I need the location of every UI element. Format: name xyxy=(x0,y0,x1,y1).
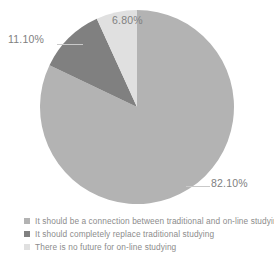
legend-item-label: It should completely replace traditional… xyxy=(35,229,214,239)
legend-item[interactable]: There is no future for on-line studying xyxy=(24,241,274,252)
legend-item-label: There is no future for on-line studying xyxy=(35,242,176,252)
pie-graphic: 6.80% 11.10% 82.10% xyxy=(0,0,274,212)
value-label-no-future: 6.80% xyxy=(112,14,143,26)
value-label-replace: 11.10% xyxy=(8,33,44,45)
chart-legend: It should be a connection between tradit… xyxy=(24,215,274,252)
legend-swatch-connection xyxy=(24,218,30,224)
pie-slices xyxy=(40,10,234,204)
leader-line-replace xyxy=(57,44,83,45)
legend-swatch-replace xyxy=(24,231,30,237)
pie-chart: 6.80% 11.10% 82.10% It should be a conne… xyxy=(0,0,274,264)
legend-swatch-no-future xyxy=(24,244,30,250)
legend-item-label: It should be a connection between tradit… xyxy=(35,216,274,226)
leader-line-connection xyxy=(186,186,210,187)
legend-item[interactable]: It should completely replace traditional… xyxy=(24,228,274,239)
legend-item[interactable]: It should be a connection between tradit… xyxy=(24,215,274,226)
value-label-connection: 82.10% xyxy=(211,177,248,189)
